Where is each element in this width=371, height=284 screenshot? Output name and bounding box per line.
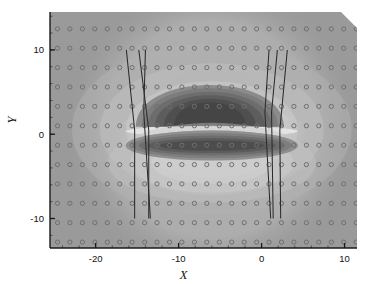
y-axis-title: Y [5,114,19,123]
contour-lower-lobe-core-5 [160,140,264,150]
contour-field-figure: -20-10010100-10XY [0,0,371,284]
y-tick-label: 0 [39,129,44,140]
x-tick-label: -20 [89,253,103,264]
x-tick-label: -10 [172,253,186,264]
y-tick-label: 10 [33,44,44,55]
figure-canvas: -20-10010100-10XY [0,0,371,284]
x-tick-label: 10 [339,253,350,264]
x-axis-title: X [179,268,189,282]
y-tick-label: -10 [30,213,44,224]
plot-area [50,12,358,248]
x-tick-label: 0 [259,253,264,264]
